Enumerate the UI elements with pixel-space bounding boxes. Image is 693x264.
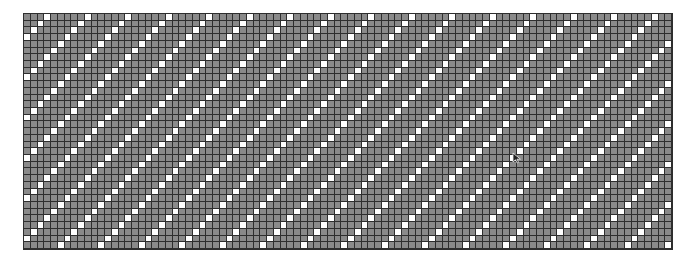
grid-cell-filled[interactable] [314,61,321,68]
grid-cell-filled[interactable] [571,108,578,115]
grid-cell-filled[interactable] [314,142,321,149]
grid-cell-filled[interactable] [274,81,281,88]
grid-cell-white[interactable] [152,148,159,155]
grid-cell-filled[interactable] [524,148,531,155]
grid-cell-filled[interactable] [409,162,416,169]
grid-cell-filled[interactable] [274,142,281,149]
grid-cell-filled[interactable] [240,189,247,196]
grid-cell-filled[interactable] [58,148,65,155]
grid-cell-white[interactable] [227,74,234,81]
grid-cell-filled[interactable] [443,128,450,135]
grid-cell-filled[interactable] [456,175,463,182]
grid-cell-white[interactable] [125,95,132,102]
grid-cell-filled[interactable] [119,175,126,182]
grid-cell-filled[interactable] [65,148,72,155]
grid-cell-filled[interactable] [281,135,288,142]
grid-cell-filled[interactable] [375,41,382,48]
grid-cell-filled[interactable] [105,175,112,182]
grid-cell-filled[interactable] [584,21,591,28]
grid-cell-white[interactable] [24,155,31,162]
grid-cell-filled[interactable] [422,115,429,122]
grid-cell-filled[interactable] [44,101,51,108]
grid-cell-white[interactable] [71,189,78,196]
grid-cell-filled[interactable] [483,242,490,249]
grid-cell-white[interactable] [85,54,92,61]
grid-cell-filled[interactable] [260,189,267,196]
grid-cell-filled[interactable] [301,148,308,155]
grid-cell-filled[interactable] [510,88,517,95]
grid-cell-filled[interactable] [557,242,564,249]
grid-cell-filled[interactable] [335,115,342,122]
grid-cell-filled[interactable] [233,21,240,28]
grid-cell-white[interactable] [152,108,159,115]
grid-cell-filled[interactable] [483,48,490,55]
grid-cell-filled[interactable] [422,215,429,222]
grid-cell-filled[interactable] [645,121,652,128]
grid-cell-filled[interactable] [598,209,605,216]
grid-cell-filled[interactable] [476,236,483,243]
grid-cell-filled[interactable] [254,189,261,196]
grid-cell-filled[interactable] [341,27,348,34]
grid-cell-filled[interactable] [213,21,220,28]
grid-cell-white[interactable] [105,236,112,243]
grid-cell-filled[interactable] [274,222,281,229]
grid-cell-filled[interactable] [389,121,396,128]
grid-cell-filled[interactable] [31,101,38,108]
grid-cell-filled[interactable] [476,41,483,48]
grid-cell-filled[interactable] [355,81,362,88]
grid-cell-filled[interactable] [51,108,58,115]
grid-cell-white[interactable] [524,142,531,149]
grid-cell-white[interactable] [537,48,544,55]
grid-cell-filled[interactable] [173,135,180,142]
grid-cell-filled[interactable] [503,95,510,102]
grid-cell-filled[interactable] [233,34,240,41]
grid-cell-filled[interactable] [335,74,342,81]
grid-cell-filled[interactable] [503,215,510,222]
grid-cell-filled[interactable] [301,101,308,108]
grid-cell-filled[interactable] [260,215,267,222]
grid-cell-filled[interactable] [213,34,220,41]
grid-cell-white[interactable] [335,168,342,175]
grid-cell-filled[interactable] [51,148,58,155]
grid-cell-white[interactable] [179,202,186,209]
grid-cell-filled[interactable] [544,21,551,28]
grid-cell-filled[interactable] [335,101,342,108]
grid-cell-filled[interactable] [618,115,625,122]
grid-cell-filled[interactable] [564,95,571,102]
grid-cell-filled[interactable] [429,135,436,142]
grid-cell-filled[interactable] [497,229,504,236]
grid-cell-filled[interactable] [497,54,504,61]
grid-cell-filled[interactable] [132,115,139,122]
grid-cell-filled[interactable] [240,48,247,55]
grid-cell-filled[interactable] [416,34,423,41]
grid-cell-filled[interactable] [186,215,193,222]
grid-cell-filled[interactable] [659,148,666,155]
grid-cell-filled[interactable] [85,182,92,189]
grid-cell-filled[interactable] [375,162,382,169]
grid-cell-filled[interactable] [618,215,625,222]
grid-cell-filled[interactable] [65,41,72,48]
grid-cell-filled[interactable] [287,182,294,189]
grid-cell-filled[interactable] [416,162,423,169]
grid-cell-filled[interactable] [449,48,456,55]
grid-cell-filled[interactable] [85,101,92,108]
grid-cell-filled[interactable] [395,209,402,216]
grid-cell-filled[interactable] [220,95,227,102]
grid-cell-filled[interactable] [193,242,200,249]
grid-cell-filled[interactable] [65,121,72,128]
grid-cell-filled[interactable] [443,14,450,21]
grid-cell-filled[interactable] [632,229,639,236]
grid-cell-filled[interactable] [503,168,510,175]
grid-cell-filled[interactable] [645,202,652,209]
grid-cell-filled[interactable] [632,101,639,108]
grid-cell-white[interactable] [463,242,470,249]
grid-cell-filled[interactable] [584,215,591,222]
grid-cell-filled[interactable] [544,14,551,21]
grid-cell-filled[interactable] [260,54,267,61]
grid-cell-filled[interactable] [605,189,612,196]
grid-cell-filled[interactable] [328,115,335,122]
grid-cell-filled[interactable] [159,121,166,128]
grid-cell-filled[interactable] [510,121,517,128]
grid-cell-filled[interactable] [524,108,531,115]
grid-cell-white[interactable] [31,148,38,155]
